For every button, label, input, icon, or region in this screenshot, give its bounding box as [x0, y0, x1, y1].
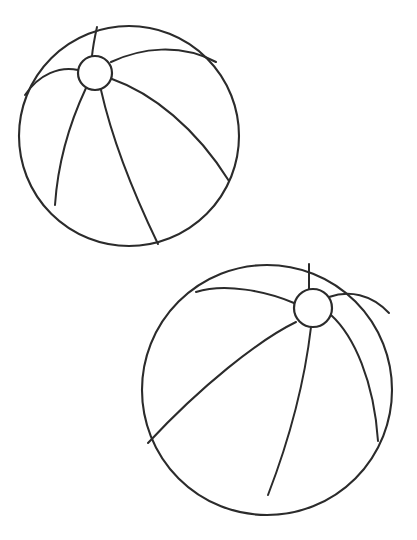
beach-ball-lower-right — [142, 264, 392, 515]
coloring-page-canvas — [0, 0, 417, 540]
ball-1-outline — [19, 26, 239, 246]
clipped-header-strip — [0, 0, 417, 7]
beach-ball-upper-left — [19, 26, 239, 246]
ball-2-outline — [142, 265, 392, 515]
ball-1-hub — [78, 56, 112, 90]
beach-ball-artwork — [0, 0, 417, 540]
ball-2-hub — [294, 289, 332, 327]
